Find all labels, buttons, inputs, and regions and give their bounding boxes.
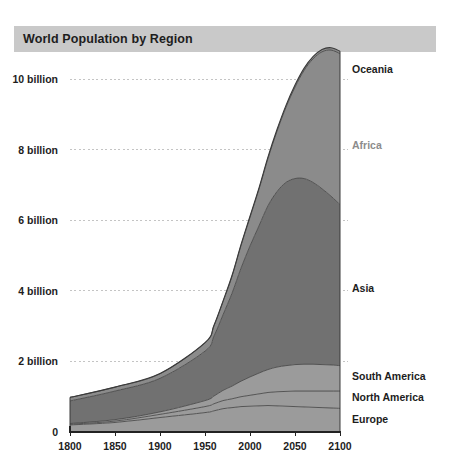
series-label-north-america: North America <box>352 391 424 403</box>
x-axis-tick-label: 2050 <box>283 440 306 452</box>
y-axis-tick-label: 4 billion <box>0 285 58 297</box>
y-axis-tick-label: 6 billion <box>0 214 58 226</box>
series-label-oceania: Oceania <box>352 63 393 75</box>
x-axis-tick-label: 1850 <box>103 440 126 452</box>
x-axis-tick-label: 1950 <box>193 440 216 452</box>
y-axis-tick-label: 8 billion <box>0 144 58 156</box>
x-axis-tick-label: 2000 <box>238 440 261 452</box>
x-axis-tick-label: 2100 <box>328 440 351 452</box>
series-label-europe: Europe <box>352 413 388 425</box>
y-axis-tick-label: 2 billion <box>0 355 58 367</box>
series-label-africa: Africa <box>352 139 382 151</box>
series-label-asia: Asia <box>352 282 374 294</box>
chart-figure: World Population by Region 02 billion4 b… <box>0 0 450 474</box>
x-axis-tick-label: 1900 <box>148 440 171 452</box>
y-axis-tick-label: 0 <box>0 426 58 438</box>
x-axis-tick-label: 1800 <box>58 440 81 452</box>
y-axis-tick-label: 10 billion <box>0 73 58 85</box>
series-label-south-america: South America <box>352 370 426 382</box>
